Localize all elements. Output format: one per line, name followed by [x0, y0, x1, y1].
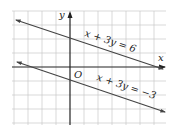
y-axis-label: y — [58, 9, 65, 20]
origin-label: O — [74, 69, 82, 80]
arrow-icon — [15, 20, 21, 24]
line1-label: x + 3y = 6 — [83, 27, 138, 54]
x-axis-label: x — [158, 52, 164, 63]
line2-label: x + 3y = −3 — [95, 71, 157, 101]
arrow-icon — [16, 62, 22, 66]
y-axis-arrow-icon — [68, 11, 73, 18]
graph: y x O x + 3y = 6 x + 3y = −3 — [0, 0, 171, 132]
arrow-icon — [160, 109, 166, 113]
